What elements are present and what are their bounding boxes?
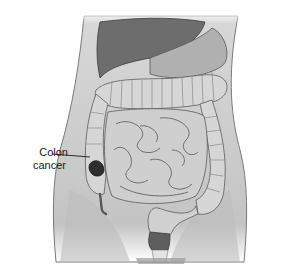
annotation-label-line1: Colon: [22, 146, 68, 158]
anatomy-illustration: [0, 0, 285, 278]
annotation-label-line2: cancer: [20, 159, 66, 171]
small-intestine: [105, 109, 208, 204]
